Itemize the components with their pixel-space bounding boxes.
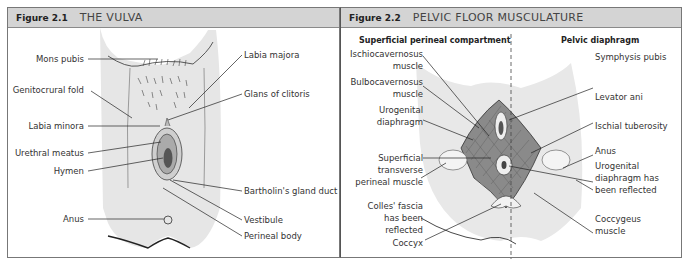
label-line: Colles' fascia (368, 200, 423, 212)
label-coccygeus-muscle: Coccygeus muscle (595, 213, 641, 237)
figure-2-2-panel: Figure 2.2 PELVIC FLOOR MUSCULATURE Supe… (340, 7, 682, 258)
vulva-illustration (8, 8, 341, 259)
label-line: Bulbocavernosus (351, 76, 424, 88)
label-coccyx: Coccyx (392, 237, 423, 249)
label-line: diaphragm (377, 116, 423, 128)
label-line: Symphysis pubis (595, 51, 666, 63)
label-line: been reflected (595, 184, 659, 196)
label-line: Coccygeus (595, 213, 641, 225)
label-line: Ischial tuberosity (595, 120, 668, 132)
label-perineal-body: Perineal body (244, 230, 302, 242)
label-anus-right: Anus (595, 145, 616, 157)
label-genitocrural-fold: Genitocrural fold (13, 84, 84, 96)
label-ischiocavernosus-muscle: Ischiocavernosus muscle (350, 48, 423, 72)
label-line: muscle (351, 88, 424, 100)
label-labia-majora: Labia majora (244, 49, 299, 61)
label-line: has been (368, 212, 423, 224)
label-line: reflected (368, 224, 423, 236)
label-ischial-tuberosity: Ischial tuberosity (595, 120, 668, 132)
label-line: transverse (355, 164, 423, 176)
label-glans-of-clitoris: Glans of clitoris (244, 88, 310, 100)
label-urogenital-diaphragm-reflected: Urogenital diaphragm has been reflected (595, 160, 659, 196)
label-levator-ani: Levator ani (595, 91, 643, 103)
label-line: Ischiocavernosus (350, 48, 423, 60)
label-line: perineal muscle (355, 176, 423, 188)
label-superficial-transverse-perineal-muscle: Superficial transverse perineal muscle (355, 152, 423, 188)
label-line: Urogenital (595, 160, 659, 172)
label-line: Coccyx (392, 237, 423, 249)
label-mons-pubis: Mons pubis (36, 53, 84, 65)
label-line: muscle (350, 60, 423, 72)
label-bulbocavernosus-muscle: Bulbocavernosus muscle (351, 76, 424, 100)
label-symphysis-pubis: Symphysis pubis (595, 51, 666, 63)
label-line: diaphragm has (595, 172, 659, 184)
label-colles-fascia: Colles' fascia has been reflected (368, 200, 423, 236)
label-line: Urogenital (377, 104, 423, 116)
label-line: Superficial (355, 152, 423, 164)
label-vestibule: Vestibule (244, 214, 283, 226)
label-bartholins-gland-duct: Bartholin's gland duct (244, 185, 337, 197)
label-line: Anus (595, 145, 616, 157)
label-anus: Anus (63, 213, 84, 225)
label-line: muscle (595, 225, 641, 237)
label-urogenital-diaphragm: Urogenital diaphragm (377, 104, 423, 128)
figure-2-1-panel: Figure 2.1 THE VULVA (7, 7, 340, 258)
label-labia-minora: Labia minora (28, 120, 84, 132)
label-hymen: Hymen (54, 165, 84, 177)
label-urethral-meatus: Urethral meatus (15, 147, 84, 159)
label-line: Levator ani (595, 91, 643, 103)
